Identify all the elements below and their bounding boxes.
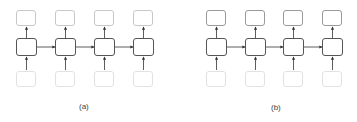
arrows-layer (0, 0, 357, 122)
caption-a: (a) (79, 102, 89, 111)
caption-b: (b) (271, 103, 281, 112)
